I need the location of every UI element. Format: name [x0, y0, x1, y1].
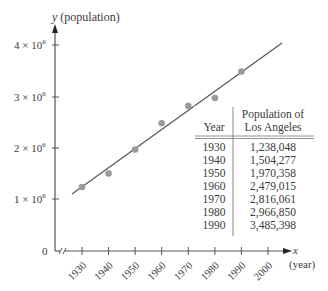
point-1950	[132, 146, 139, 153]
table-header-year: Year	[203, 121, 224, 133]
table-cell-population: 2,816,061	[250, 193, 296, 206]
table-cell-year: 1980	[203, 206, 226, 218]
svg-text:1990: 1990	[225, 260, 248, 283]
y-axis-arrow-icon	[52, 24, 58, 33]
table-cell-year: 1970	[203, 193, 226, 205]
origin-label: 0	[42, 245, 48, 257]
table-cell-population: 3,485,398	[250, 219, 296, 232]
y-tick-label-4e6: 4 × 106	[14, 38, 46, 51]
table-cell-year: 1930	[203, 141, 226, 153]
x-axis-unit: (year)	[289, 258, 316, 271]
table-cell-year: 1990	[203, 219, 226, 231]
table-year-column: 1930 1940 1950 1960 1970 1980 1990	[203, 141, 226, 231]
table-header-population-line1: Population of	[242, 108, 304, 121]
point-1940	[105, 170, 112, 177]
data-table: Year Population of Los Angeles 1930 1940…	[194, 106, 316, 238]
x-axis-var: x	[292, 244, 298, 256]
svg-text:1950: 1950	[119, 260, 142, 283]
point-1970	[185, 103, 192, 110]
y-tick-label-1e6: 1 × 106	[14, 192, 46, 205]
table-cell-population: 1,970,358	[250, 167, 296, 180]
x-tick-labels: 1930 1940 1950 1960 1970 1980 1990 2000	[66, 260, 275, 283]
table-cell-year: 1940	[203, 154, 226, 166]
point-1980	[212, 95, 219, 102]
point-1990	[238, 68, 245, 75]
table-cell-population: 2,966,850	[250, 206, 296, 219]
population-chart: y (population) 4 × 106 3 × 106 2 × 106 1…	[0, 0, 328, 291]
table-population-column: 1,238,048 1,504,277 1,970,358 2,479,015 …	[250, 141, 296, 232]
table-cell-population: 2,479,015	[250, 180, 296, 193]
table-cell-year: 1950	[203, 167, 226, 179]
svg-text:2000: 2000	[252, 260, 275, 283]
point-1960	[158, 120, 165, 127]
table-cell-population: 1,238,048	[250, 141, 296, 154]
svg-text:1960: 1960	[145, 260, 168, 283]
y-tick-label-2e6: 2 × 106	[14, 141, 46, 154]
svg-text:1930: 1930	[66, 260, 89, 283]
svg-text:1970: 1970	[172, 260, 195, 283]
svg-text:1980: 1980	[199, 260, 222, 283]
table-header-population-line2: Los Angeles	[244, 121, 302, 134]
y-tick-label-3e6: 3 × 106	[14, 90, 46, 103]
table-cell-year: 1960	[203, 180, 226, 192]
point-1930	[79, 184, 86, 191]
x-axis-arrow-icon	[283, 248, 292, 254]
svg-text:1940: 1940	[92, 260, 115, 283]
x-axis	[55, 248, 286, 254]
y-axis-label: y (population)	[51, 10, 120, 24]
table-cell-population: 1,504,277	[250, 154, 296, 167]
